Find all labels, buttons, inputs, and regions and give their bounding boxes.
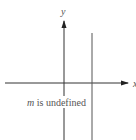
coordinate-plane: y x m is undefined xyxy=(0,0,136,140)
slope-variable: m xyxy=(27,97,34,108)
slope-caption-text: is undefined xyxy=(34,97,86,108)
slope-caption: m is undefined xyxy=(27,97,86,108)
y-axis-label: y xyxy=(60,6,66,17)
x-axis-label: x xyxy=(132,78,136,89)
vertical-line-slope-diagram: y x m is undefined xyxy=(0,0,136,140)
